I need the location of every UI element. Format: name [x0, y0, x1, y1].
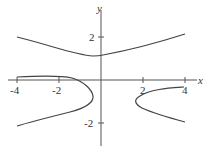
y-tick-label: -2: [84, 117, 93, 129]
x-axis-label: x: [197, 74, 203, 86]
hyperbola-plot: -4 -2 2 4 2 -2 x y: [0, 0, 207, 149]
y-tick-label: 2: [89, 31, 95, 43]
x-tick-label: -2: [52, 84, 61, 96]
x-tick-label: 4: [182, 84, 188, 96]
y-axis-label: y: [96, 2, 102, 14]
x-tick-label: -4: [10, 84, 20, 96]
